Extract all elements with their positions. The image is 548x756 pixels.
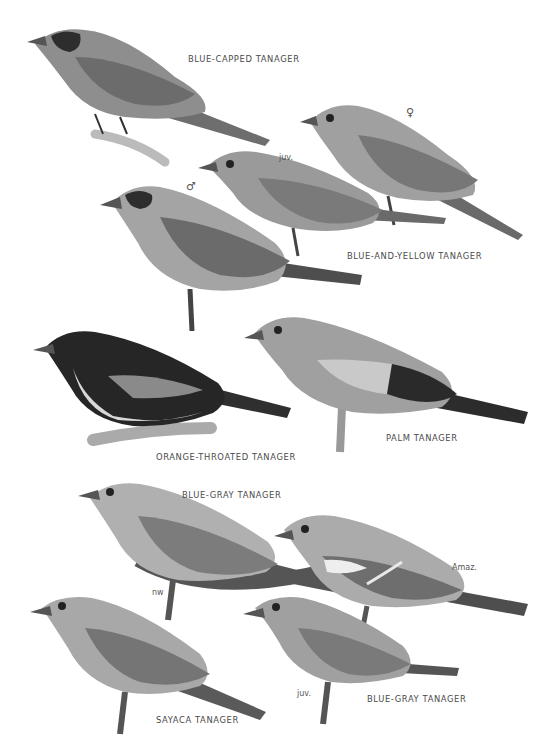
juv-note-1: juv. <box>279 153 293 162</box>
amaz-note: Amaz. <box>452 563 477 572</box>
label-orange-throated-tanager: ORANGE-THROATED TANAGER <box>156 452 296 462</box>
label-blue-capped-tanager: BLUE-CAPPED TANAGER <box>188 54 300 64</box>
bird-sayaca-tanager <box>30 594 270 734</box>
label-palm-tanager: PALM TANAGER <box>386 433 458 443</box>
bird-blue-and-yellow-tanager-male <box>100 183 365 333</box>
label-blue-gray-tanager-bottom: BLUE-GRAY TANAGER <box>367 694 466 704</box>
female-symbol: ♀ <box>406 106 414 119</box>
nw-note: nw <box>152 588 164 597</box>
male-symbol: ♂ <box>186 180 196 193</box>
bird-blue-gray-tanager-juvenile <box>243 594 463 724</box>
label-sayaca-tanager: SAYACA TANAGER <box>156 715 239 725</box>
label-blue-and-yellow-tanager: BLUE-AND-YELLOW TANAGER <box>347 251 482 261</box>
label-blue-gray-tanager-top: BLUE-GRAY TANAGER <box>182 490 281 500</box>
juv-note-2: juv. <box>297 689 311 698</box>
illustration-plate: BLUE-CAPPED TANAGER BLUE-AND-YELLOW TANA… <box>0 0 548 756</box>
bird-palm-tanager <box>242 312 530 452</box>
bird-blue-capped-tanager <box>25 22 275 162</box>
